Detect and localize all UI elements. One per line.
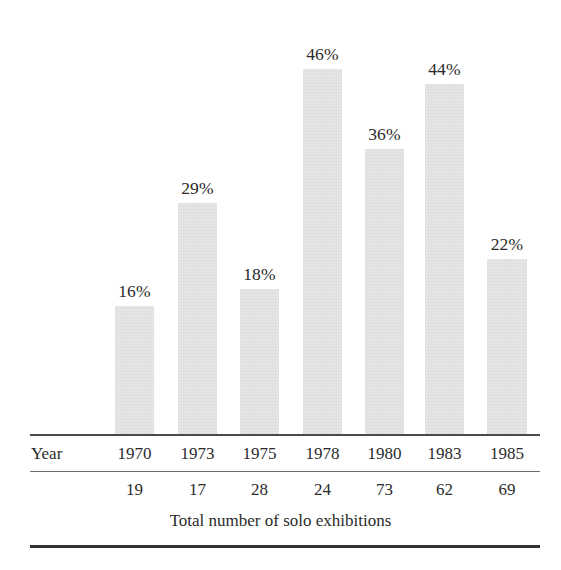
bar-value-label: 46% — [306, 46, 339, 64]
bar-value-label: 29% — [181, 180, 214, 198]
table-cell-year: 1970 — [115, 439, 154, 469]
bar — [115, 306, 154, 436]
table-caption: Total number of solo exhibitions — [0, 508, 561, 534]
plot-area: 16% 29% 18% 46% 36% 44% 22% — [0, 0, 561, 436]
data-table: Year 1970 1973 1975 1978 1980 1983 1985 … — [0, 436, 561, 570]
table-cell-count: 28 — [240, 475, 279, 505]
table-row-header-year: Year — [31, 439, 62, 469]
table-cell-count: 17 — [178, 475, 217, 505]
bar — [425, 84, 464, 436]
chart-figure: 16% 29% 18% 46% 36% 44% 22% — [0, 0, 561, 570]
table-cell-count: 73 — [365, 475, 404, 505]
table-row-counts: 19 17 28 24 73 62 69 — [0, 475, 561, 505]
table-cell-year: 1975 — [240, 439, 279, 469]
bar-group: 16% — [115, 0, 154, 436]
bar — [240, 289, 279, 436]
bar-value-label: 22% — [491, 236, 524, 254]
bar-group: 18% — [240, 0, 279, 436]
bar — [303, 69, 342, 436]
table-cell-count: 24 — [303, 475, 342, 505]
bar-value-label: 36% — [368, 126, 401, 144]
bar — [365, 149, 404, 436]
bar-value-label: 44% — [428, 61, 461, 79]
bar-group: 46% — [303, 0, 342, 436]
table-cell-year: 1983 — [425, 439, 464, 469]
table-cell-year: 1985 — [487, 439, 527, 469]
table-cell-count: 19 — [115, 475, 154, 505]
table-cell-year: 1973 — [178, 439, 217, 469]
table-row-years: Year 1970 1973 1975 1978 1980 1983 1985 — [0, 439, 561, 469]
table-cell-year: 1978 — [303, 439, 342, 469]
bar-group: 44% — [425, 0, 464, 436]
table-cell-count: 62 — [425, 475, 464, 505]
bar-value-label: 18% — [243, 266, 276, 284]
table-cell-year: 1980 — [365, 439, 404, 469]
table-cell-count: 69 — [487, 475, 527, 505]
bar-value-label: 16% — [118, 283, 151, 301]
bar-group: 36% — [365, 0, 404, 436]
bar — [178, 203, 217, 436]
bar — [487, 259, 527, 436]
bar-group: 22% — [487, 0, 527, 436]
bar-group: 29% — [178, 0, 217, 436]
